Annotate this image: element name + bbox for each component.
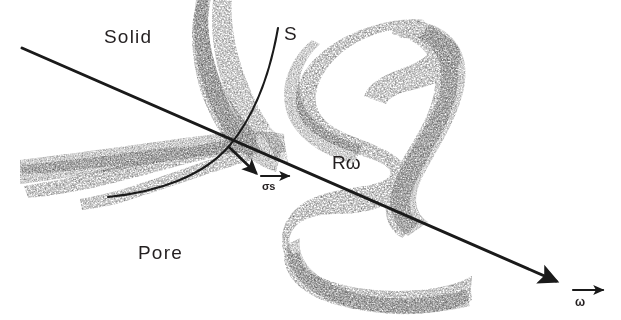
label-radius-r-omega: Rω	[332, 153, 361, 172]
figure-vector-layer	[0, 0, 621, 320]
label-normal-sigma-s: σs	[262, 181, 275, 192]
label-pore: Pore	[138, 243, 183, 262]
label-interface-curve-s: S	[284, 24, 297, 43]
label-solid: Solid	[104, 27, 152, 46]
label-direction-omega: ω	[575, 296, 585, 308]
figure-canvas: Solid Pore S Rω σs ω	[0, 0, 621, 320]
